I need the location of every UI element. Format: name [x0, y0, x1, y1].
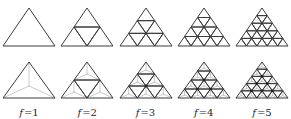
triangle-plain-f4 [175, 5, 233, 47]
triangle-plain-f3 [117, 5, 175, 47]
frequency-value: 1 [32, 107, 38, 118]
triangle-centroid-f3 [117, 59, 175, 99]
triangle-centroid-f1 [0, 59, 58, 99]
frequency-label-cell-2: f=2 [58, 101, 116, 119]
triangle-cell-centroid-f2 [58, 59, 116, 99]
triangle-centroid-f2 [58, 59, 116, 99]
triangle-plain-f5 [233, 5, 291, 47]
triangle-cell-centroid-f4 [175, 59, 233, 99]
triangle-cell-plain-f2 [58, 5, 116, 47]
frequency-value: 3 [149, 107, 155, 118]
frequency-label-row: f=1f=2f=3f=4f=5 [0, 101, 291, 119]
frequency-label-cell-3: f=3 [117, 101, 175, 119]
triangle-plain-f2 [58, 5, 116, 47]
frequency-value: 5 [265, 107, 271, 118]
triangle-centroid-f4 [175, 59, 233, 99]
triangle-centroid-f5 [233, 59, 291, 99]
triangle-cell-plain-f1 [0, 5, 58, 47]
equals-sign: = [140, 107, 148, 118]
frequency-label: f=1 [19, 107, 38, 118]
triangle-cell-centroid-f5 [233, 59, 291, 99]
triangle-cell-plain-f3 [117, 5, 175, 47]
triangle-plain-f1 [0, 5, 58, 47]
frequency-value: 2 [91, 107, 97, 118]
bottom-triangle-row [0, 59, 291, 99]
frequency-label-cell-5: f=5 [233, 101, 291, 119]
frequency-value: 4 [207, 107, 213, 118]
triangle-cell-plain-f5 [233, 5, 291, 47]
frequency-label-cell-1: f=1 [0, 101, 58, 119]
equals-sign: = [199, 107, 207, 118]
top-triangle-row [0, 5, 291, 47]
triangle-cell-plain-f4 [175, 5, 233, 47]
frequency-label: f=3 [136, 107, 155, 118]
frequency-label: f=4 [194, 107, 213, 118]
triangle-cell-centroid-f3 [117, 59, 175, 99]
frequency-label: f=5 [252, 107, 271, 118]
equals-sign: = [82, 107, 90, 118]
frequency-label: f=2 [78, 107, 97, 118]
frequency-label-cell-4: f=4 [175, 101, 233, 119]
triangle-cell-centroid-f1 [0, 59, 58, 99]
triangle-frequency-figure: f=1f=2f=3f=4f=5 [0, 0, 291, 119]
